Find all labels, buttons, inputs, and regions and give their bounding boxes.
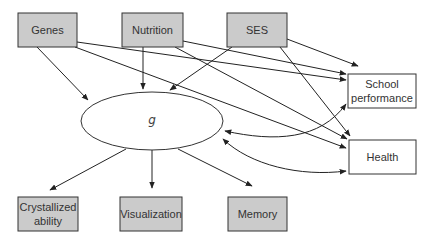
node-visualization-label: Visualization <box>120 208 182 220</box>
edge-genes-g <box>37 47 88 100</box>
edge-ses-health <box>280 47 350 136</box>
edge-g-school-bidirectional <box>225 104 346 137</box>
edge-g-crystallized <box>50 149 126 190</box>
node-crystallized-ability: Crystallized ability <box>18 197 78 231</box>
node-g-label: g <box>148 113 156 127</box>
edge-ses-g <box>170 47 232 90</box>
node-memory: Memory <box>228 197 287 231</box>
path-diagram: Genes Nutrition SES School performance H… <box>0 0 428 243</box>
node-school-label-line1: School <box>365 78 399 90</box>
edge-g-health-bidirectional <box>223 139 346 173</box>
node-crystallized-label-line1: Crystallized <box>20 201 77 213</box>
node-visualization: Visualization <box>120 197 182 231</box>
node-health: Health <box>349 140 416 174</box>
node-nutrition-label: Nutrition <box>132 24 173 36</box>
node-g: g <box>81 92 223 150</box>
node-genes: Genes <box>18 13 77 47</box>
edge-ses-school <box>287 39 358 66</box>
node-ses: SES <box>227 13 287 47</box>
node-nutrition: Nutrition <box>122 13 183 47</box>
node-memory-label: Memory <box>238 208 278 220</box>
node-genes-label: Genes <box>31 24 64 36</box>
node-school-performance: School performance <box>348 74 416 108</box>
node-school-label-line2: performance <box>351 92 413 104</box>
node-ses-label: SES <box>246 24 268 36</box>
node-health-label: Health <box>367 151 399 163</box>
edge-g-memory <box>178 149 252 186</box>
node-crystallized-label-line2: ability <box>34 215 63 227</box>
